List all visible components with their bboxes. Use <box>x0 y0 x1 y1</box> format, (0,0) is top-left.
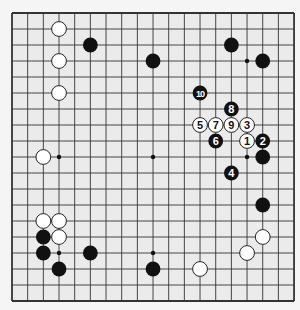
move-number-label: 1 <box>244 135 250 147</box>
white-stone[interactable] <box>52 22 67 37</box>
hoshi-point <box>245 155 249 159</box>
white-stone[interactable] <box>240 246 255 261</box>
black-stone[interactable] <box>36 246 51 261</box>
move-6-black-stone[interactable]: 6 <box>208 134 223 149</box>
black-stone[interactable] <box>146 54 161 69</box>
white-stone[interactable] <box>52 214 67 229</box>
move-10-black-stone[interactable]: 10 <box>193 86 208 101</box>
white-stone[interactable] <box>193 262 208 277</box>
move-8-black-stone[interactable]: 8 <box>224 102 239 117</box>
move-3-white-stone[interactable]: 3 <box>240 118 255 133</box>
black-stone[interactable] <box>224 38 239 53</box>
hoshi-point <box>245 59 249 63</box>
move-number-label: 6 <box>213 135 219 147</box>
white-stone[interactable] <box>255 230 270 245</box>
black-stone[interactable] <box>36 230 51 245</box>
move-number-label: 2 <box>260 135 266 147</box>
hoshi-point <box>57 155 61 159</box>
move-number-label: 5 <box>197 119 203 131</box>
black-stone[interactable] <box>83 246 98 261</box>
black-stone[interactable] <box>83 38 98 53</box>
move-number-label: 4 <box>228 167 235 179</box>
move-number-label: 10 <box>196 89 205 99</box>
black-stone[interactable] <box>52 262 67 277</box>
move-number-label: 3 <box>244 119 250 131</box>
move-number-label: 7 <box>213 119 219 131</box>
move-number-label: 9 <box>228 119 234 131</box>
move-1-white-stone[interactable]: 1 <box>240 134 255 149</box>
move-9-white-stone[interactable]: 9 <box>224 118 239 133</box>
move-number-label: 8 <box>228 103 234 115</box>
move-5-white-stone[interactable]: 5 <box>193 118 208 133</box>
move-4-black-stone[interactable]: 4 <box>224 166 239 181</box>
go-board[interactable]: 12345678910 <box>0 0 300 310</box>
black-stone[interactable] <box>255 54 270 69</box>
black-stone[interactable] <box>146 262 161 277</box>
black-stone[interactable] <box>255 150 270 165</box>
white-stone[interactable] <box>52 230 67 245</box>
white-stone[interactable] <box>52 86 67 101</box>
move-7-white-stone[interactable]: 7 <box>208 118 223 133</box>
hoshi-point <box>151 155 155 159</box>
white-stone[interactable] <box>36 214 51 229</box>
hoshi-point <box>151 251 155 255</box>
white-stone[interactable] <box>36 150 51 165</box>
black-stone[interactable] <box>255 198 270 213</box>
move-2-black-stone[interactable]: 2 <box>255 134 270 149</box>
hoshi-point <box>57 251 61 255</box>
white-stone[interactable] <box>52 54 67 69</box>
